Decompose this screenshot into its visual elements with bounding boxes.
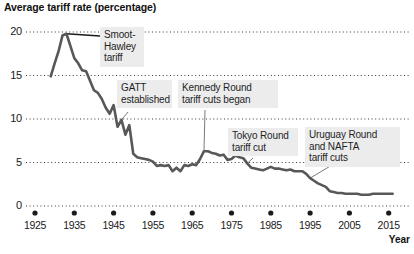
x-axis-tick-label: 1975 [212, 219, 252, 231]
x-axis-tick-dots [32, 210, 391, 215]
annotation-uruguay-nafta: Uruguay Round and NAFTA tariff cuts [305, 127, 400, 167]
annotation-leader-line [66, 34, 100, 36]
x-axis-tick-dot [32, 210, 37, 215]
y-axis-tick-label: 0 [0, 199, 22, 211]
gridlines [26, 32, 410, 206]
tariff-rate-line-chart: Average tariff rate (percentage) 0510152… [0, 0, 414, 254]
x-axis-tick-dot [72, 210, 77, 215]
x-axis-tick-dot [308, 210, 313, 215]
x-axis-tick-dot [229, 210, 234, 215]
y-axis-tick-label: 20 [0, 25, 22, 37]
annotation-leader-line [204, 110, 205, 151]
x-axis-tick-label: 1995 [290, 219, 330, 231]
annotation-line: tariff cuts began [182, 94, 274, 106]
x-axis-tick-label: 1945 [94, 219, 134, 231]
annotation-line: Hawley [104, 41, 140, 53]
x-axis-tick-label: 1985 [251, 219, 291, 231]
x-axis-title: Year [389, 234, 410, 245]
annotation-line: established [121, 94, 168, 106]
annotation-line: Kennedy Round [182, 82, 274, 94]
x-axis-tick-label: 2015 [369, 219, 409, 231]
x-axis-tick-dot [347, 210, 352, 215]
annotation-line: tariff [104, 52, 140, 64]
x-axis-tick-label: 1965 [172, 219, 212, 231]
x-axis-tick-dot [386, 210, 391, 215]
x-axis-tick-label: 2005 [329, 219, 369, 231]
x-axis-tick-dot [268, 210, 273, 215]
annotation-line: Uruguay Round [309, 129, 396, 141]
annotation-tokyo-round: Tokyo Round tariff cut [228, 128, 298, 156]
annotation-line: Smoot- [104, 29, 140, 41]
annotation-gatt: GATT established [117, 80, 172, 108]
y-axis-tick-label: 10 [0, 112, 22, 124]
annotation-line: and NAFTA [309, 141, 396, 153]
x-axis-tick-dot [111, 210, 116, 215]
x-axis-tick-dot [190, 210, 195, 215]
x-axis-tick-label: 1935 [54, 219, 94, 231]
x-axis-tick-label: 1955 [133, 219, 173, 231]
y-axis-tick-label: 5 [0, 156, 22, 168]
x-axis-tick-dot [150, 210, 155, 215]
annotation-line: Tokyo Round [232, 130, 294, 142]
annotation-smoot-hawley: Smoot- Hawley tariff [100, 27, 144, 67]
annotation-line: tariff cuts [309, 152, 396, 164]
y-axis-tick-label: 15 [0, 69, 22, 81]
annotation-line: GATT [121, 82, 168, 94]
annotation-kennedy-round: Kennedy Round tariff cuts began [178, 80, 278, 108]
annotation-leader-line [310, 165, 332, 178]
x-axis-tick-label: 1925 [15, 219, 55, 231]
annotation-line: tariff cut [232, 142, 294, 154]
